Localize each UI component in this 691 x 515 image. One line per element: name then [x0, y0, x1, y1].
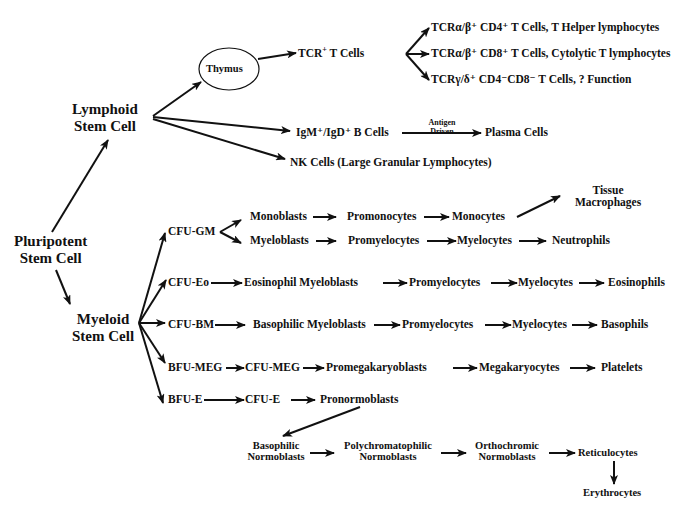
cfu-bm-node: CFU-BM	[168, 318, 214, 330]
myelocytes-e-node: Myelocytes	[518, 276, 573, 288]
b-cells-node: IgM⁺/IgD⁺ B Cells	[296, 126, 389, 138]
tcr-suffix: T Cells	[327, 47, 364, 59]
tissue-macrophages-node: Tissue Macrophages	[566, 184, 650, 208]
neutrophils-node: Neutrophils	[552, 234, 610, 246]
macrophage-line2: Macrophages	[566, 196, 650, 208]
orthochromic-line2: Normoblasts	[466, 451, 548, 462]
pluripotent-stem-cell-node: Pluripotent Stem Cell	[14, 233, 87, 266]
basophilic-line2: Normoblasts	[240, 451, 312, 462]
basophilic-line1: Basophilic	[240, 440, 312, 451]
lymphoid-stem-cell-node: Lymphoid Stem Cell	[72, 101, 138, 134]
promegakaryoblasts-node: Promegakaryoblasts	[326, 361, 427, 373]
myeloblasts-node: Myeloblasts	[250, 234, 309, 246]
myeloid-stem-cell-node: Myeloid Stem Cell	[72, 311, 134, 344]
promonocytes-node: Promonocytes	[347, 210, 416, 222]
antigen-driven-label: Antigen Driven	[418, 118, 466, 136]
pluripotent-line1: Pluripotent	[14, 233, 87, 250]
monocytes-node: Monocytes	[452, 210, 505, 222]
reticulocytes-node: Reticulocytes	[578, 447, 637, 458]
eosinophils-node: Eosinophils	[608, 276, 665, 288]
tcr-label: TCR	[298, 47, 322, 59]
macrophage-line1: Tissue	[566, 184, 650, 196]
basophils-node: Basophils	[601, 318, 648, 330]
thymus-label: Thymus	[206, 63, 243, 74]
cfu-meg-node: CFU-MEG	[245, 361, 300, 373]
myelocytes-b-node: Myelocytes	[512, 318, 567, 330]
myeloid-line1: Myeloid	[72, 311, 134, 328]
orthochromic-normoblasts-node: Orthochromic Normoblasts	[466, 440, 548, 462]
antigen-bottom: Driven	[418, 127, 466, 136]
polychromatophilic-line2: Normoblasts	[334, 451, 442, 462]
plasma-cells-node: Plasma Cells	[485, 126, 548, 138]
cd4-helper-node: TCRα/β⁺ CD4⁺ T Cells, T Helper lymphocyt…	[431, 21, 659, 33]
lymphoid-line1: Lymphoid	[72, 101, 138, 118]
polychromatophilic-normoblasts-node: Polychromatophilic Normoblasts	[334, 440, 442, 462]
hematopoiesis-diagram: Pluripotent Stem Cell Lymphoid Stem Cell…	[0, 0, 691, 515]
platelets-node: Platelets	[601, 361, 643, 373]
megakaryocytes-node: Megakaryocytes	[479, 361, 559, 373]
bfu-meg-node: BFU-MEG	[168, 361, 222, 373]
myeloid-line2: Stem Cell	[72, 328, 134, 345]
orthochromic-line1: Orthochromic	[466, 440, 548, 451]
polychromatophilic-line1: Polychromatophilic	[334, 440, 442, 451]
eosinophil-myeloblasts-node: Eosinophil Myeloblasts	[244, 276, 358, 288]
cfu-e-node: CFU-E	[245, 393, 280, 405]
promyelocytes-n-node: Promyelocytes	[348, 234, 419, 246]
gamma-delta-node: TCRγ/δ⁺ CD4⁻CD8⁻ T Cells, ? Function	[431, 73, 631, 85]
antigen-top: Antigen	[418, 118, 466, 127]
basophil-myeloblasts-node: Basophilic Myeloblasts	[253, 318, 366, 330]
myelocytes-n-node: Myelocytes	[457, 234, 512, 246]
tcr-t-cells-node: TCR+ T Cells	[298, 47, 364, 59]
pluripotent-line2: Stem Cell	[14, 250, 87, 267]
cfu-eo-node: CFU-Eo	[168, 276, 209, 288]
lymphoid-line2: Stem Cell	[72, 118, 138, 135]
bfu-e-node: BFU-E	[168, 393, 203, 405]
erythrocytes-node: Erythrocytes	[583, 487, 641, 498]
monoblasts-node: Monoblasts	[250, 210, 307, 222]
cfu-gm-node: CFU-GM	[168, 225, 215, 237]
cd8-cytolytic-node: TCRα/β⁺ CD8⁺ T Cells, Cytolytic T lympho…	[431, 47, 670, 59]
promyelocytes-b-node: Promyelocytes	[402, 318, 473, 330]
promyelocytes-e-node: Promyelocytes	[409, 276, 480, 288]
nk-cells-node: NK Cells (Large Granular Lymphocytes)	[290, 156, 492, 168]
pronormoblasts-node: Pronormoblasts	[320, 393, 398, 405]
basophilic-normoblasts-node: Basophilic Normoblasts	[240, 440, 312, 462]
